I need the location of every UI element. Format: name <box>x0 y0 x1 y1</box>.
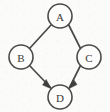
node-c-label: C <box>85 52 92 64</box>
node-c[interactable]: C <box>77 45 101 69</box>
node-d[interactable]: D <box>48 85 72 109</box>
graph-canvas: A B C D <box>0 0 110 112</box>
edge-a-to-b <box>30 25 52 49</box>
node-a-label: A <box>56 11 64 23</box>
node-d-label: D <box>56 92 64 104</box>
edge-a-to-c <box>69 25 81 49</box>
arrowhead-c-to-d-icon <box>69 80 77 89</box>
node-b-label: B <box>17 52 24 64</box>
edge-group <box>30 25 81 88</box>
node-a[interactable]: A <box>48 4 72 28</box>
dag-figure: A B C D <box>0 0 110 112</box>
node-b[interactable]: B <box>9 45 33 69</box>
